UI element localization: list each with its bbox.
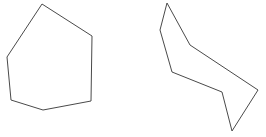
figure-svg	[0, 0, 266, 137]
drawing-canvas	[0, 0, 266, 137]
